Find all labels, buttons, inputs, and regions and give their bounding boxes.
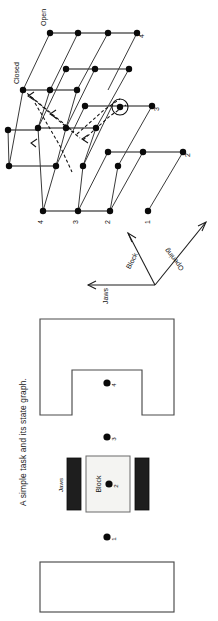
- position-label-4: 4: [110, 383, 117, 387]
- state-graph-nodes: [5, 30, 186, 214]
- axis-triad: [88, 222, 206, 289]
- jaws-label: Jaws: [57, 478, 64, 492]
- jaws-position-label-4: 4: [138, 34, 145, 38]
- table-surface: [40, 562, 174, 612]
- block-label: Block: [95, 475, 102, 493]
- jaws-position-label-2: 2: [184, 153, 191, 157]
- opening-level-label-open: Open: [40, 9, 48, 26]
- jaw-right: [135, 458, 149, 510]
- state-graph-edges: [8, 33, 183, 211]
- task-scene-figure: A simple task and its state graph. 4 3 J…: [0, 310, 218, 621]
- axis-label-opening: Opening: [163, 246, 186, 272]
- state-graph-figure: Open Closed 4 3 2 1 4 3 2 Jaws: [0, 0, 218, 310]
- block-position-label-4: 4: [37, 220, 44, 224]
- axis-label-jaws: Jaws: [102, 288, 109, 304]
- position-label-2: 2: [112, 484, 119, 488]
- block-position-label-3: 3: [72, 220, 79, 224]
- figure-page: Open Closed 4 3 2 1 4 3 2 Jaws: [0, 0, 218, 621]
- jaws-position-label-3: 3: [153, 107, 160, 111]
- figure-caption: A simple task and its state graph.: [18, 378, 28, 506]
- position-label-1: 1: [110, 537, 117, 541]
- position-label-3: 3: [110, 437, 117, 441]
- notched-fixture: [40, 319, 174, 415]
- jaws-position-label-1: 1: [144, 220, 151, 224]
- block-position-label-2: 2: [104, 220, 111, 224]
- jaw-left: [67, 458, 81, 510]
- task-scene-svg: A simple task and its state graph. 4 3 J…: [0, 310, 218, 621]
- axis-label-block: Block: [125, 251, 139, 270]
- opening-level-label-closed: Closed: [13, 62, 20, 84]
- state-graph-svg: Open Closed 4 3 2 1 4 3 2 Jaws: [0, 0, 218, 310]
